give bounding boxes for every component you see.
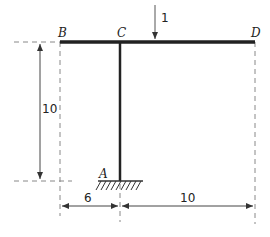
load-label: 1 xyxy=(161,11,169,25)
left-span-label: 6 xyxy=(84,191,92,205)
height-dimension-label: 10 xyxy=(42,102,57,116)
node-label-d: D xyxy=(250,26,261,40)
node-label-b: B xyxy=(57,26,67,40)
node-label-a: A xyxy=(98,167,108,181)
right-span-label: 10 xyxy=(180,191,195,205)
node-label-c: C xyxy=(117,26,126,40)
frame-diagram: 1 B C D A 10 6 10 xyxy=(0,0,270,237)
frame-members xyxy=(60,42,255,181)
extension-lines xyxy=(14,42,255,224)
